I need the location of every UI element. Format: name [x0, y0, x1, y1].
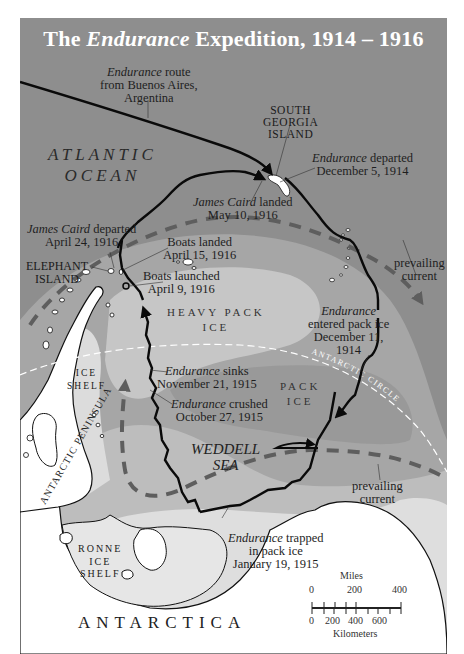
antarctica-label: ANTARCTICA: [78, 614, 246, 632]
atlantic-ocean-label: ATLANTIC OCEAN: [48, 146, 157, 185]
prevailing-current-east-note: prevailing current: [394, 257, 445, 283]
scale-km-tick-0: 0: [309, 616, 314, 627]
scale-km-tick-200: 200: [325, 616, 340, 627]
heavy-pack-ice-label: HEAVY PACK ICE: [167, 307, 265, 333]
endurance-trapped-note: Endurance trapped in pack ice January 19…: [228, 532, 323, 571]
small-island-shelf-2: [60, 533, 72, 544]
endurance-departed-note: Endurance departed December 5, 1914: [312, 152, 413, 178]
pack-ice-label: PACK ICE: [280, 381, 320, 407]
ice-shelf-label: ICE SHELF: [67, 369, 106, 392]
scale-miles-label: Miles: [340, 571, 363, 582]
map-title: The Endurance Expedition, 1914 – 1916: [20, 26, 447, 52]
scale-mile-tick-400: 400: [392, 585, 407, 596]
scale-km-tick-600: 600: [372, 616, 387, 627]
james-caird-landed-note: James Caird landed May 10, 1916: [193, 196, 293, 222]
scale-mile-tick-200: 200: [347, 585, 362, 596]
weddell-sea-label: WEDDELL SEA: [191, 442, 260, 474]
small-island-shelf: [122, 570, 133, 579]
scale-km-tick-400: 400: [348, 616, 363, 627]
prevailing-current-south-note: prevailing current: [352, 480, 403, 506]
endurance-sinks-note: Endurance sinks November 21, 1915: [157, 365, 257, 391]
endurance-crushed-note: Endurance crushed October 27, 1915: [171, 398, 268, 424]
ronne-ice-shelf-label: RONNE ICE SHELF: [78, 544, 122, 580]
scale-mile-tick-0: 0: [309, 585, 314, 596]
south-georgia-label: SOUTH GEORGIA ISLAND: [263, 104, 318, 140]
james-caird-departed-note: James Caird departed April 24, 1916: [27, 223, 136, 249]
entered-pack-ice-note: Endurance entered pack ice December 11, …: [308, 305, 389, 358]
island-dot: [258, 172, 261, 174]
boats-landed-note: Boats landed April 15, 1916: [163, 236, 236, 262]
route-from-buenos-aires-note: Endurance route from Buenos Aires, Argen…: [100, 66, 198, 105]
boats-launched-note: Boats launched April 9, 1916: [143, 270, 220, 296]
scale-km-label: Kilometers: [333, 629, 377, 640]
elephant-island-label: ELEPHANT ISLAND: [26, 260, 88, 285]
